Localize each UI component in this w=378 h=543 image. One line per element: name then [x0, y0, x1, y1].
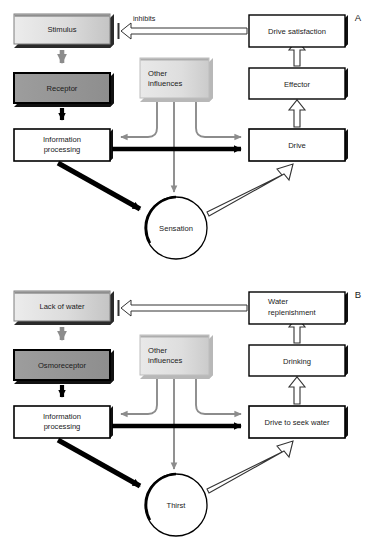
node-sensation-b: Thirst [145, 474, 207, 536]
panel-a-letter: A [355, 12, 362, 23]
node-label-infoproc-a-line1: Information [43, 135, 81, 144]
node-label-other-b-line1: Other [148, 346, 167, 355]
node-sensation-a: Sensation [145, 197, 207, 259]
node-label-drive-satisfaction-b-line1: Water [268, 297, 288, 306]
node-other-influences-a: Other influences [140, 58, 213, 102]
node-label-other-b-line2: influences [148, 356, 182, 365]
node-label-receptor-b: Osmoreceptor [38, 361, 87, 370]
edge-infoproc-to-sensation-b [58, 440, 140, 486]
edge-other-to-infoproc-b [121, 379, 157, 414]
node-receptor-a: Receptor [14, 73, 114, 107]
node-label-infoproc-b-line2: processing [44, 422, 81, 431]
edge-other-to-infoproc-a [121, 102, 157, 137]
node-effector-b: Drinking [249, 345, 348, 376]
node-label-drive-satisfaction-b-line2: replenishment [268, 308, 317, 317]
node-other-influences-b: Other influences [140, 335, 213, 379]
panel-b-letter: B [355, 289, 361, 300]
node-information-processing-a: Information processing [14, 129, 113, 161]
node-effector-a: Effector [249, 68, 348, 99]
node-information-processing-b: Information processing [14, 406, 113, 438]
diagram-svg: A Stimulus Receptor Inf [0, 0, 378, 543]
node-label-effector-a: Effector [284, 80, 311, 89]
node-label-infoproc-b-line1: Information [43, 412, 81, 421]
edge-label-inhibits: inhibits [133, 14, 156, 23]
edge-satisfaction-to-stimulus-a: inhibits [119, 14, 248, 39]
node-label-drive-satisfaction-a: Drive satisfaction [268, 27, 326, 36]
node-stimulus-a: Stimulus [14, 14, 114, 48]
figure-canvas: A Stimulus Receptor Inf [0, 0, 378, 543]
edge-sensation-to-drive-a [207, 164, 293, 216]
edge-drive-to-effector-b [289, 377, 305, 404]
edge-other-to-drive-a [196, 102, 241, 137]
node-drive-satisfaction-b: Water replenishment [249, 292, 348, 324]
node-drive-b: Drive to seek water [249, 406, 348, 438]
node-label-drive-b: Drive to seek water [265, 418, 330, 427]
node-stimulus-b: Lack of water [14, 291, 114, 325]
node-label-other-a-line1: Other [148, 69, 167, 78]
edge-infoproc-to-sensation-a [58, 163, 140, 209]
node-label-infoproc-a-line2: processing [44, 145, 81, 154]
node-drive-a: Drive [249, 129, 348, 161]
node-label-sensation-b: Thirst [167, 501, 187, 510]
node-label-stimulus-a: Stimulus [47, 25, 76, 34]
node-label-drive-a: Drive [288, 141, 306, 150]
node-label-stimulus-b: Lack of water [39, 302, 85, 311]
node-label-other-a-line2: influences [148, 79, 182, 88]
node-drive-satisfaction-a: Drive satisfaction [249, 15, 348, 47]
edge-other-to-drive-b [196, 379, 241, 414]
node-receptor-b: Osmoreceptor [14, 350, 114, 384]
edge-sensation-to-drive-b [207, 441, 293, 493]
edge-satisfaction-to-stimulus-b [119, 300, 248, 316]
node-label-sensation-a: Sensation [159, 224, 193, 233]
panel-b: B Lack of water Osmoreceptor Info [14, 289, 361, 536]
node-label-effector-b: Drinking [283, 357, 311, 366]
edge-drive-to-effector-a [289, 100, 305, 127]
node-label-receptor-a: Receptor [47, 84, 78, 93]
panel-a: A Stimulus Receptor Inf [14, 12, 362, 259]
